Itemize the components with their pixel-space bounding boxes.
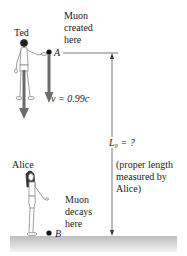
point-b-dot xyxy=(46,230,51,235)
muon-decays-line1: Muon xyxy=(65,194,89,205)
alice-figure xyxy=(26,171,49,236)
ted-figure xyxy=(15,40,47,100)
proper-length-line1: (proper length xyxy=(116,159,173,170)
muon-decays-line2: decays xyxy=(65,206,92,217)
ted-label: Ted xyxy=(14,27,29,38)
point-a-label: A xyxy=(54,47,60,58)
muon-created-line3: here xyxy=(64,34,81,45)
length-label: L₀ = ? xyxy=(109,137,135,148)
proper-length-line2: measured by xyxy=(116,171,167,182)
ground xyxy=(10,236,177,252)
muon-decays-line3: here xyxy=(65,218,82,229)
diagram-canvas xyxy=(0,0,187,256)
proper-length-line3: Alice) xyxy=(116,183,141,194)
point-a-dot xyxy=(46,49,51,54)
muon-created-line1: Muon xyxy=(64,10,88,21)
velocity-label: v = 0.99c xyxy=(51,93,89,104)
muon-created-line2: created xyxy=(64,22,93,33)
point-b-label: B xyxy=(55,228,61,239)
alice-label: Alice xyxy=(12,159,34,170)
